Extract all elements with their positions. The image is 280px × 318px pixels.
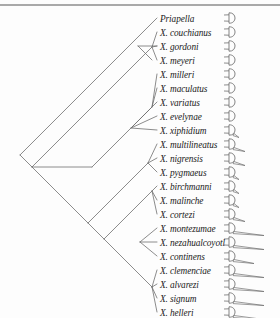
taxon-label: X. couchianus: [160, 28, 211, 38]
taxon-label: X. cortezi: [160, 210, 195, 220]
taxon-row: X. alvarezi: [160, 278, 199, 291]
taxon-row: X. meyeri: [160, 54, 195, 67]
taxon-row: X. montezumae: [160, 222, 216, 235]
taxon-row: X. evelynae: [160, 110, 202, 123]
taxon-label: X. clemenciae: [160, 266, 211, 276]
taxon-label: X. nezahualcoyotl: [160, 238, 225, 248]
taxon-row: X. nezahualcoyotl: [160, 236, 225, 249]
taxon-label: X. milleri: [160, 70, 194, 80]
taxon-label: X. evelynae: [160, 112, 202, 122]
taxon-row: X. nigrensis: [160, 152, 203, 165]
taxon-row: X. gordoni: [160, 40, 198, 53]
taxon-label: X. multilineatus: [160, 140, 217, 150]
taxon-label: X. xiphidium: [160, 126, 206, 136]
taxon-label-layer: PriapellaX. couchianusX. gordoniX. meyer…: [0, 0, 280, 318]
taxon-row: X. pygmaeus: [160, 166, 206, 179]
taxon-row: X. maculatus: [160, 82, 207, 95]
taxon-label: X. signum: [160, 294, 196, 304]
taxon-row: X. clemenciae: [160, 264, 211, 277]
taxon-label: X. montezumae: [160, 224, 216, 234]
taxon-label: X. pygmaeus: [160, 168, 206, 178]
taxon-row: X. milleri: [160, 68, 194, 81]
taxon-row: X. variatus: [160, 96, 200, 109]
taxon-label: Priapella: [160, 14, 194, 24]
taxon-label: X. nigrensis: [160, 154, 203, 164]
taxon-row: X. malinche: [160, 194, 203, 207]
taxon-label: X. maculatus: [160, 84, 207, 94]
taxon-label: X. meyeri: [160, 56, 195, 66]
taxon-row: X. couchianus: [160, 26, 211, 39]
taxon-row: X. xiphidium: [160, 124, 206, 137]
taxon-label: X. continens: [160, 252, 205, 262]
taxon-label: X. variatus: [160, 98, 200, 108]
taxon-row: X. signum: [160, 292, 196, 305]
taxon-label: X. malinche: [160, 196, 203, 206]
phylogeny-figure: PriapellaX. couchianusX. gordoniX. meyer…: [0, 0, 280, 318]
taxon-label: X. birchmanni: [160, 182, 212, 192]
taxon-row: X. helleri: [160, 306, 194, 318]
taxon-row: Priapella: [160, 12, 194, 25]
taxon-row: X. continens: [160, 250, 205, 263]
taxon-label: X. gordoni: [160, 42, 198, 52]
taxon-row: X. multilineatus: [160, 138, 217, 151]
taxon-row: X. cortezi: [160, 208, 195, 221]
taxon-label: X. helleri: [160, 308, 194, 318]
taxon-row: X. birchmanni: [160, 180, 212, 193]
taxon-label: X. alvarezi: [160, 280, 199, 290]
